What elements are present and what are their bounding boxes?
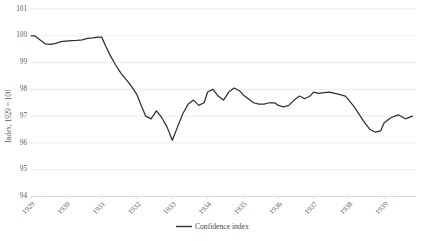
x-tick-label-1929: 1929 xyxy=(21,200,37,216)
legend-label-confidence-index: Confidence index xyxy=(195,222,249,231)
x-tick-label-1930: 1930 xyxy=(56,200,72,216)
x-tick-label-1939: 1939 xyxy=(374,200,390,216)
y-tick-label-101: 101 xyxy=(16,5,27,13)
y-axis-title-text: Index, 1929 = 100 xyxy=(5,89,13,142)
x-tick-label-1931: 1931 xyxy=(91,200,107,216)
x-axis-tick-marks xyxy=(31,197,384,200)
x-tick-label-1938: 1938 xyxy=(338,200,354,216)
x-tick-label-1936: 1936 xyxy=(268,200,284,216)
x-tick-label-1932: 1932 xyxy=(127,200,143,216)
x-tick-label-1935: 1935 xyxy=(233,200,249,216)
x-axis-tick-labels: 1929193019311932193319341935193619371938… xyxy=(21,200,390,216)
y-tick-label-97: 97 xyxy=(20,112,28,120)
y-axis-title: Index, 1929 = 100 xyxy=(5,89,13,142)
y-axis-tick-labels: 949596979899100101 xyxy=(16,5,27,201)
y-gridlines xyxy=(31,9,416,197)
y-tick-label-96: 96 xyxy=(20,139,28,147)
y-tick-label-100: 100 xyxy=(16,31,27,39)
series-confidence-index xyxy=(31,36,412,140)
y-tick-label-99: 99 xyxy=(20,58,28,66)
x-tick-label-1933: 1933 xyxy=(162,200,178,216)
chart-container: 949596979899100101 192919301931193219331… xyxy=(0,0,423,241)
x-tick-label-1937: 1937 xyxy=(303,200,319,216)
y-tick-label-94: 94 xyxy=(20,192,28,200)
line-chart: 949596979899100101 192919301931193219331… xyxy=(0,0,423,241)
x-tick-label-1934: 1934 xyxy=(197,200,213,216)
confidence-index-line xyxy=(31,36,412,140)
y-tick-label-95: 95 xyxy=(20,165,28,173)
chart-legend: Confidence index xyxy=(176,222,249,231)
y-tick-label-98: 98 xyxy=(20,85,28,93)
